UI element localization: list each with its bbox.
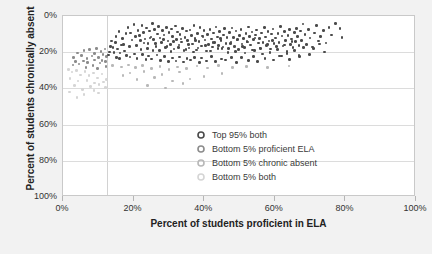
data-point <box>84 70 87 73</box>
data-point <box>159 37 162 40</box>
data-point <box>288 58 291 61</box>
data-point <box>245 65 248 68</box>
data-point <box>200 57 203 60</box>
data-point <box>216 36 219 39</box>
data-point <box>247 59 250 62</box>
data-point <box>242 37 245 40</box>
data-point <box>236 38 239 41</box>
data-point <box>83 93 86 96</box>
data-point <box>271 39 274 42</box>
data-point <box>282 45 285 48</box>
data-point <box>204 44 207 47</box>
data-point <box>134 35 137 38</box>
data-point <box>138 34 141 37</box>
data-point <box>120 66 123 69</box>
data-point <box>82 60 85 63</box>
data-point <box>162 38 165 41</box>
data-point <box>167 40 170 43</box>
data-point <box>86 57 89 60</box>
data-point <box>198 61 201 64</box>
data-point <box>179 33 182 36</box>
data-point <box>146 84 149 87</box>
data-point <box>196 32 199 35</box>
data-point <box>157 25 160 28</box>
data-point <box>304 33 307 36</box>
legend-item[interactable]: Bottom 5% proficient ELA <box>196 142 356 156</box>
data-point <box>341 36 344 39</box>
data-point <box>277 32 280 35</box>
data-point <box>214 60 217 63</box>
data-point <box>272 28 275 31</box>
legend-item[interactable]: Bottom 5% chronic absent <box>196 156 356 170</box>
data-point <box>101 73 104 76</box>
data-point <box>278 41 281 44</box>
data-point <box>98 83 101 86</box>
data-point <box>280 55 283 58</box>
legend-label: Bottom 5% proficient ELA <box>212 144 315 154</box>
data-point <box>112 46 115 49</box>
x-tick-mark <box>344 196 345 201</box>
data-point <box>276 48 279 51</box>
data-point <box>246 40 249 43</box>
data-point <box>243 46 246 49</box>
data-point <box>189 29 192 32</box>
data-point <box>189 78 192 81</box>
data-point <box>127 64 130 67</box>
data-point <box>215 26 218 29</box>
data-point <box>213 41 216 44</box>
data-point <box>289 43 292 46</box>
data-point <box>194 37 197 40</box>
data-point <box>231 66 234 69</box>
data-point <box>191 43 194 46</box>
data-point <box>185 48 188 51</box>
legend-marker-circle-icon <box>196 172 206 182</box>
data-point <box>296 35 299 38</box>
data-point <box>252 55 255 58</box>
data-point <box>147 55 150 58</box>
data-point <box>275 45 278 48</box>
data-point <box>197 47 200 50</box>
data-point <box>168 68 171 71</box>
data-point <box>312 47 315 50</box>
legend-item[interactable]: Top 95% both <box>196 128 356 142</box>
data-point <box>274 37 277 40</box>
data-point <box>164 46 167 49</box>
data-point <box>221 72 224 75</box>
data-point <box>241 43 244 46</box>
data-point <box>176 31 179 34</box>
data-point <box>167 60 170 63</box>
data-point <box>118 57 121 60</box>
data-point <box>221 47 224 50</box>
data-point <box>325 42 328 45</box>
data-point <box>298 54 301 57</box>
data-point <box>268 40 271 43</box>
data-point <box>96 67 99 70</box>
data-point <box>210 55 213 58</box>
data-point <box>69 77 72 80</box>
data-point <box>149 37 152 40</box>
data-point <box>67 68 70 71</box>
gridline-horizontal <box>63 52 414 53</box>
data-point <box>265 44 268 47</box>
data-point <box>142 31 145 34</box>
data-point <box>174 25 177 28</box>
data-point <box>125 54 128 57</box>
data-point <box>196 65 199 68</box>
x-tick-label: 20% <box>124 203 142 213</box>
data-point <box>222 46 225 49</box>
data-point <box>236 39 239 42</box>
data-point <box>278 55 281 58</box>
gridline-horizontal <box>63 88 414 89</box>
data-point <box>287 34 290 37</box>
legend-item[interactable]: Bottom 5% both <box>196 170 356 184</box>
y-tick-label: 20% <box>5 46 57 56</box>
data-point <box>125 32 128 35</box>
data-point <box>195 49 198 52</box>
data-point <box>295 27 298 30</box>
data-point <box>147 42 150 45</box>
data-point <box>145 58 148 61</box>
data-point <box>180 38 183 41</box>
data-point <box>256 60 259 63</box>
data-point <box>136 57 139 60</box>
data-point <box>68 91 71 94</box>
